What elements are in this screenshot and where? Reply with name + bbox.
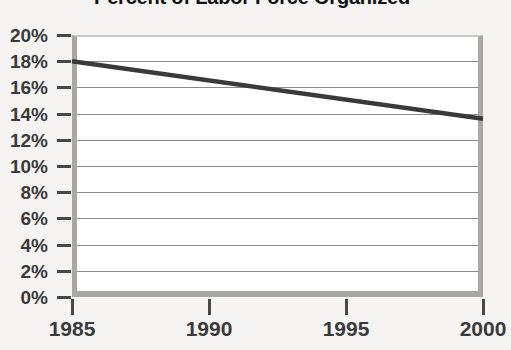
y-axis-tick-mark [57,217,71,220]
y-axis-tick-label: 14% [0,105,48,124]
gridline [77,271,478,272]
y-axis-tick-mark [57,60,71,63]
x-axis-tick-label: 1990 [164,318,254,339]
gridline [77,166,478,167]
x-axis-tick-mark [71,299,74,315]
y-axis-tick-label: 6% [0,209,48,228]
gridline [77,114,478,115]
y-axis-tick-mark [57,191,71,194]
y-axis-tick-mark [57,113,71,116]
y-axis-tick-mark [57,86,71,89]
gridline [77,140,478,141]
gridline [77,192,478,193]
x-axis-tick-mark [482,299,485,315]
gridlines-group [77,37,478,291]
y-axis-tick-mark [57,270,71,273]
y-axis-tick-mark [57,296,71,299]
y-axis-tick-label: 20% [0,26,48,45]
plot-area [72,35,483,297]
y-axis-tick-label: 4% [0,236,48,255]
y-axis-tick-mark [57,139,71,142]
y-axis-tick-mark [57,34,71,37]
x-axis-tick-mark [208,299,211,315]
y-axis-tick-label: 2% [0,262,48,281]
x-axis-tick-mark [345,299,348,315]
y-axis-tick-mark [57,165,71,168]
y-axis-tick-label: 12% [0,131,48,150]
y-axis-tick-label: 18% [0,52,48,71]
y-axis-tick-label: 8% [0,183,48,202]
y-axis-tick-mark [57,244,71,247]
y-axis-tick-label: 0% [0,288,48,307]
x-axis-tick-label: 2000 [438,318,511,339]
gridline [77,245,478,246]
x-axis-tick-label: 1985 [27,318,117,339]
y-axis-tick-label: 16% [0,78,48,97]
chart-title: Percent of Labor Force Organized [0,0,504,9]
y-axis-tick-label: 10% [0,157,48,176]
gridline [77,61,478,62]
gridline [77,218,478,219]
x-axis-tick-label: 1995 [301,318,391,339]
gridline [77,87,478,88]
